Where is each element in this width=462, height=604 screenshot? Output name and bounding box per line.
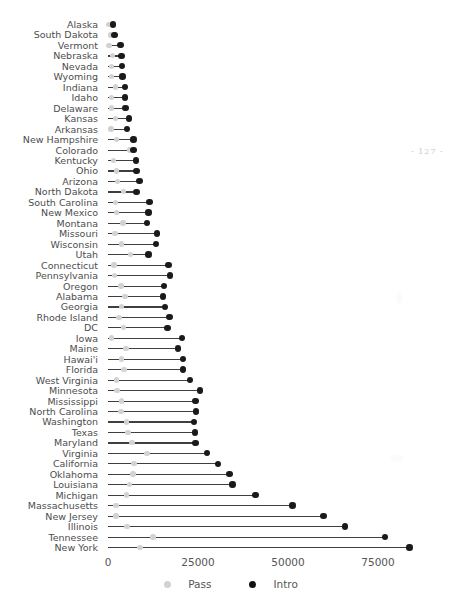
pass-dot <box>109 74 114 79</box>
connector-line <box>108 265 168 266</box>
intro-dot <box>289 502 295 508</box>
connector-line <box>108 421 194 422</box>
legend-label-intro: Intro <box>273 578 297 590</box>
pass-dot <box>109 105 114 110</box>
connector-line <box>108 505 293 506</box>
intro-dot <box>187 377 193 383</box>
pass-dot <box>115 179 120 184</box>
intro-dot <box>124 126 130 132</box>
pass-dot <box>118 283 123 288</box>
intro-dot <box>118 53 124 59</box>
intro-dot <box>164 325 170 331</box>
intro-dot <box>229 481 235 487</box>
connector-line <box>108 223 147 224</box>
connector-line <box>108 348 178 349</box>
pass-dot <box>113 200 118 205</box>
intro-dot <box>117 42 123 48</box>
intro-dot <box>130 147 136 153</box>
pass-dot <box>121 325 126 330</box>
connector-line <box>108 275 170 276</box>
intro-dot <box>119 73 125 79</box>
intro-dot <box>226 471 232 477</box>
pass-dot <box>124 419 129 424</box>
connector-line <box>108 296 163 297</box>
legend-item-pass: Pass <box>164 578 211 590</box>
pass-dot <box>130 471 135 476</box>
intro-dot <box>175 345 181 351</box>
intro-dot <box>144 220 150 226</box>
pass-dot <box>114 210 119 215</box>
pass-dot <box>125 430 130 435</box>
intro-dot <box>153 241 159 247</box>
pass-dot <box>108 126 113 131</box>
intro-dot <box>191 419 197 425</box>
x-axis: 0250005000075000 <box>0 556 462 576</box>
connector-line <box>108 181 139 182</box>
legend-marker-pass-icon <box>164 581 171 588</box>
pass-dot <box>109 95 114 100</box>
connector-line <box>108 432 195 433</box>
intro-dot <box>252 492 258 498</box>
connector-line <box>108 442 195 443</box>
pass-dot <box>121 367 126 372</box>
legend-label-pass: Pass <box>188 578 211 590</box>
pass-dot <box>131 461 136 466</box>
intro-dot <box>161 283 167 289</box>
intro-dot <box>167 272 173 278</box>
intro-dot <box>133 189 139 195</box>
pass-dot <box>122 294 127 299</box>
x-tick-label: 25000 <box>181 556 214 568</box>
pass-dot <box>113 503 118 508</box>
intro-dot <box>166 314 172 320</box>
dumbbell-plot-area: AlaskaSouth DakotaVermontNebraskaNevadaW… <box>0 0 462 604</box>
connector-line <box>108 170 136 171</box>
connector-line <box>108 463 218 464</box>
intro-dot <box>122 84 128 90</box>
intro-dot <box>165 262 171 268</box>
intro-dot <box>197 387 203 393</box>
pass-dot <box>124 524 129 529</box>
intro-dot <box>320 513 326 519</box>
intro-dot <box>204 450 210 456</box>
intro-dot <box>382 534 388 540</box>
connector-line <box>108 244 156 245</box>
x-tick-label: 75000 <box>361 556 394 568</box>
intro-dot <box>162 304 168 310</box>
pass-dot <box>119 241 124 246</box>
connector-line <box>108 327 167 328</box>
connector-line <box>108 547 410 548</box>
pass-dot <box>114 377 119 382</box>
intro-dot <box>136 178 142 184</box>
pass-dot <box>113 116 118 121</box>
pass-dot <box>116 315 121 320</box>
intro-dot <box>160 293 166 299</box>
intro-dot <box>180 356 186 362</box>
intro-dot <box>126 115 132 121</box>
connector-line <box>108 474 230 475</box>
intro-dot <box>122 94 128 100</box>
pass-dot <box>114 388 119 393</box>
pass-dot <box>119 356 124 361</box>
pass-dot <box>109 335 114 340</box>
pass-dot <box>111 262 116 267</box>
pass-dot <box>119 398 124 403</box>
intro-dot <box>342 523 348 529</box>
row-label-50: New York <box>0 541 98 554</box>
x-tick-label: 50000 <box>271 556 304 568</box>
intro-dot <box>111 32 117 38</box>
pass-dot <box>110 53 115 58</box>
legend-marker-intro-icon <box>249 581 256 588</box>
intro-dot <box>180 366 186 372</box>
pass-dot <box>129 440 134 445</box>
pass-dot <box>114 168 119 173</box>
pass-dot <box>123 346 128 351</box>
connector-line <box>108 286 164 287</box>
intro-dot <box>130 136 136 142</box>
intro-dot <box>192 398 198 404</box>
intro-dot <box>406 544 412 550</box>
chart-legend: Pass Intro <box>0 574 462 594</box>
pass-dot <box>106 43 111 48</box>
connector-line <box>108 306 165 307</box>
intro-dot <box>193 408 199 414</box>
pass-dot <box>137 545 142 550</box>
